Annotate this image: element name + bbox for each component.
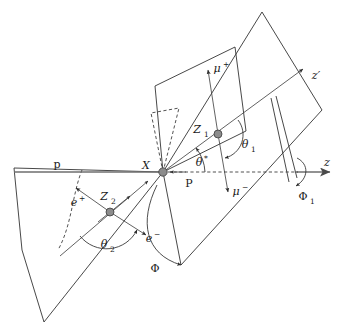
theta1-arc xyxy=(225,120,243,158)
angle-arcs xyxy=(80,120,306,265)
label-theta-1: θ 1 xyxy=(242,138,256,154)
decay-angle-diagram: p X P z z′ Z 1 Z 2 μ + μ − e xyxy=(0,0,344,327)
label-phi-1-base: Φ xyxy=(298,190,307,203)
dashed-edge-triangle xyxy=(151,108,179,172)
label-muon-minus-superscript: − xyxy=(242,183,248,192)
label-boson-1-base: Z xyxy=(192,123,201,136)
label-electron-plus-base: e xyxy=(71,196,78,209)
label-phi-1: Φ 1 xyxy=(298,190,314,206)
label-theta-1-base: θ xyxy=(242,138,249,151)
z1-decay-plane xyxy=(155,47,246,172)
label-resonance-x: X xyxy=(141,159,151,172)
label-theta-star: θ * xyxy=(196,154,208,169)
label-boson-1-subscript: 1 xyxy=(204,130,209,139)
label-theta-1-subscript: 1 xyxy=(251,145,256,154)
label-theta-2-base: θ xyxy=(101,238,108,251)
label-electron-plus: e + xyxy=(71,194,86,209)
phi-arc xyxy=(147,185,181,265)
theta2-arc xyxy=(80,230,137,249)
label-phi-1-subscript: 1 xyxy=(310,197,315,206)
label-muon-minus: μ − xyxy=(232,183,248,198)
muon-plus-arrow xyxy=(208,70,218,134)
x-vertex-dot xyxy=(159,168,167,176)
label-muon-plus-superscript: + xyxy=(223,60,229,69)
label-boson-2-subscript: 2 xyxy=(111,197,116,206)
dashed-edge-left-curve xyxy=(58,170,82,250)
label-theta-2: θ 2 xyxy=(101,238,115,254)
label-production-momentum: P xyxy=(185,177,193,190)
label-boson-2-base: Z xyxy=(99,190,108,203)
label-electron-minus: e − xyxy=(146,230,161,245)
z2-vertex-dot xyxy=(106,208,114,216)
label-axis-z: z xyxy=(323,156,330,169)
label-boson-2: Z 2 xyxy=(99,190,116,206)
label-muon-plus-base: μ xyxy=(213,62,220,75)
label-muon-minus-base: μ xyxy=(232,185,239,198)
label-muon-plus: μ + xyxy=(213,60,229,75)
label-theta-2-subscript: 2 xyxy=(110,245,115,254)
label-electron-plus-superscript: + xyxy=(79,194,85,203)
decay-diagram-canvas: p X P z z′ Z 1 Z 2 μ + μ − e xyxy=(0,0,344,327)
z2-decay-plane xyxy=(14,168,163,322)
label-electron-minus-base: e xyxy=(146,232,153,245)
label-electron-minus-superscript: − xyxy=(154,230,160,239)
diagram-labels: p X P z z′ Z 1 Z 2 μ + μ − e xyxy=(53,60,330,275)
z2-plane-outline xyxy=(14,168,163,322)
label-theta-star-base: θ xyxy=(196,156,203,169)
z1-plane-outline xyxy=(155,47,246,172)
z1-vertex-dot xyxy=(214,130,222,138)
vertex-dots xyxy=(106,130,222,216)
label-theta-star-superscript: * xyxy=(204,154,208,163)
plane-right-edges xyxy=(271,96,297,182)
label-boson-1: Z 1 xyxy=(192,123,209,139)
label-proton-left: p xyxy=(53,158,60,171)
label-axis-z-prime: z′ xyxy=(311,69,321,82)
label-phi: Φ xyxy=(150,262,159,275)
